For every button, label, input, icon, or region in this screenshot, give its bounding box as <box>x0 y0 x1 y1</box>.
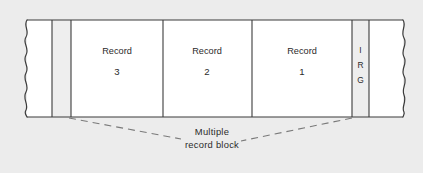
record-1-number: 1 <box>299 66 304 77</box>
gap-left-fill <box>52 20 71 117</box>
irg-letter-g: G <box>357 75 364 85</box>
record-3-number: 3 <box>114 66 119 77</box>
record-2-number: 2 <box>204 66 209 77</box>
tape-strip-fill <box>27 20 403 117</box>
callout-caption-line-2: record block <box>185 139 239 150</box>
record-2-label: Record <box>192 46 222 56</box>
irg-letter-i: I <box>359 45 361 55</box>
record-3-label: Record <box>102 46 132 56</box>
callout-caption-line-1: Multiple <box>195 126 229 137</box>
tape-record-block-diagram: Record 3 Record 2 Record 1 I R G Multipl… <box>0 0 423 173</box>
irg-letter-r: R <box>357 60 363 70</box>
record-1-label: Record <box>287 46 317 56</box>
diagram-canvas: Record 3 Record 2 Record 1 I R G Multipl… <box>0 0 423 173</box>
